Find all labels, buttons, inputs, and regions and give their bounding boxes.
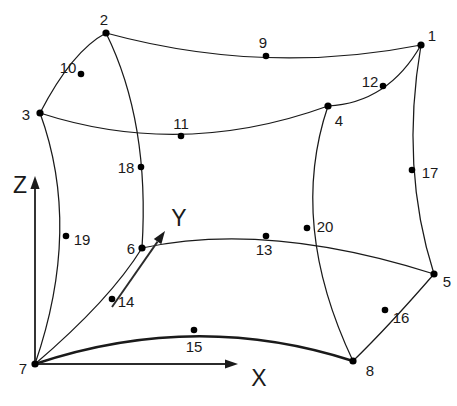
node-dot-8[interactable] <box>349 357 356 364</box>
node-dot-18[interactable] <box>138 164 145 171</box>
node-label-17: 17 <box>422 165 439 180</box>
node-label-8: 8 <box>366 363 374 378</box>
figure-canvas: 1234567891011121314151617181920 ZYX <box>0 0 457 406</box>
edge-2-18-6 <box>106 33 143 248</box>
node-dot-7[interactable] <box>31 360 38 367</box>
node-dot-19[interactable] <box>63 233 70 240</box>
edge-6-13-5 <box>142 239 434 274</box>
edge-1-17-5 <box>413 45 434 274</box>
node-label-13: 13 <box>256 242 273 257</box>
node-dot-10[interactable] <box>78 71 85 78</box>
node-dot-15[interactable] <box>191 327 198 334</box>
node-label-18: 18 <box>118 160 135 175</box>
node-label-16: 16 <box>393 310 410 325</box>
node-label-19: 19 <box>74 232 91 247</box>
axis-arrowhead-y <box>154 231 165 244</box>
node-label-2: 2 <box>100 12 108 27</box>
edge-3-19-7 <box>35 113 60 364</box>
axis-label-y: Y <box>171 207 186 230</box>
node-label-1: 1 <box>428 28 436 43</box>
node-dot-3[interactable] <box>36 109 43 116</box>
node-dot-1[interactable] <box>417 41 424 48</box>
node-label-20: 20 <box>317 219 334 234</box>
node-label-11: 11 <box>173 116 189 131</box>
node-label-7: 7 <box>19 361 27 376</box>
node-label-15: 15 <box>186 339 203 354</box>
figure-caption <box>0 392 457 406</box>
node-label-14: 14 <box>118 294 135 309</box>
node-dot-20[interactable] <box>304 225 311 232</box>
node-label-5: 5 <box>443 274 451 289</box>
node-dot-11[interactable] <box>178 133 185 140</box>
node-dot-9[interactable] <box>263 53 270 60</box>
node-label-3: 3 <box>22 107 30 122</box>
axis-label-x: X <box>251 367 266 390</box>
axis-label-z: Z <box>13 174 27 197</box>
node-label-10: 10 <box>60 60 77 75</box>
axis-arrowhead-x <box>225 359 238 368</box>
node-dot-14[interactable] <box>109 296 116 303</box>
node-dot-4[interactable] <box>324 102 331 109</box>
node-dot-2[interactable] <box>102 29 109 36</box>
node-label-9: 9 <box>259 35 267 50</box>
node-label-6: 6 <box>127 241 135 256</box>
node-dot-6[interactable] <box>138 244 145 251</box>
node-dot-16[interactable] <box>382 307 389 314</box>
axis-arrowhead-z <box>30 176 39 189</box>
node-label-4: 4 <box>335 113 343 128</box>
node-dot-17[interactable] <box>409 167 416 174</box>
node-label-12: 12 <box>362 74 379 89</box>
node-dot-5[interactable] <box>430 270 437 277</box>
node-dot-12[interactable] <box>380 83 387 90</box>
node-dot-13[interactable] <box>263 233 270 240</box>
